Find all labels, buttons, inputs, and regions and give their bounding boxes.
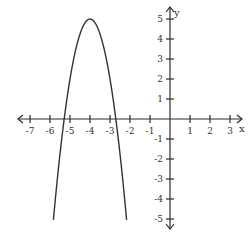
y-tick-label: -2 [154,154,163,164]
y-axis-label: y [173,7,180,18]
x-tick-label: -7 [26,126,35,136]
x-tick-label: -1 [146,126,155,136]
y-tick-label: -5 [154,214,163,224]
y-tick-label: 5 [157,14,163,24]
y-tick-label: 2 [157,74,163,84]
y-tick-label: 1 [157,94,163,104]
y-tick-label: -3 [154,174,163,184]
y-tick-label: -1 [154,134,163,144]
y-tick-label: 3 [157,54,163,64]
x-tick-label: 3 [227,126,233,136]
parabola-chart: -7-6-5-4-3-2-1123-5-4-3-2-112345 x y [0,0,252,237]
x-tick-label: -6 [46,126,55,136]
x-tick-label: -2 [126,126,135,136]
x-tick-label: 2 [207,126,213,136]
x-tick-label: -3 [106,126,115,136]
x-tick-label: 1 [187,126,193,136]
y-tick-label: -4 [154,194,163,204]
x-tick-label: -4 [86,126,95,136]
y-tick-label: 4 [157,34,163,44]
x-axis-label: x [239,123,245,134]
x-tick-label: -5 [66,126,75,136]
